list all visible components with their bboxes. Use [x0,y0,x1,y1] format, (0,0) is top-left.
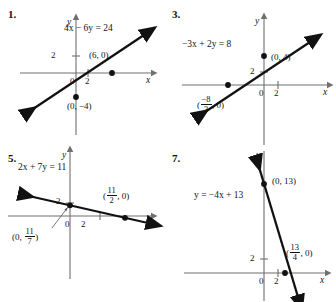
y-axis-label: y [67,18,71,28]
origin-label: 0 [259,89,264,98]
point-marker-x-intercept [282,270,288,276]
problem-panel-3: 3. −3x + 2y = 8 [168,0,336,151]
x-axis-label: x [320,276,324,286]
graph-1 [0,0,168,151]
point-label-y-intercept: (0, 13) [272,177,296,186]
point-marker-y-intercept [261,53,267,59]
fraction: −8 3 [201,95,212,114]
x-tick-label-2: 2 [81,220,86,229]
y-tick-label-2: 2 [250,67,255,76]
y-axis-label: y [62,151,66,161]
x-tick-label-2: 2 [85,77,90,86]
point-marker-y-intercept [73,94,79,100]
point-label-y-intercept: (0, −4) [67,102,92,111]
problem-panel-1: 1. 4x − 6y = 24 [0,0,168,151]
x-axis-label: x [323,88,327,98]
y-tick-label-2: 2 [51,51,56,60]
x-tick-label-2: 2 [274,89,279,98]
problem-panel-7: 7. y = −4x + 13 [168,151,336,302]
origin-label: 0 [259,277,264,286]
problem-panel-5: 5. 2x + 7y = 11 [0,151,168,302]
y-axis-label: y [256,151,260,161]
y-tick-label-2: 2 [56,197,61,206]
y-tick-label-2: 2 [250,254,255,263]
y-axis-label: y [255,17,259,27]
fraction: 11 2 [107,186,117,205]
point-label-y-intercept: (0, 4) [271,53,291,62]
graph-7 [168,151,336,302]
origin-label: 0 [70,77,75,86]
point-label-x-intercept: ( 13 4 , 0) [286,243,313,262]
point-marker-x-intercept [122,215,128,221]
point-label-x-intercept: (6, 0) [89,51,109,60]
x-tick-label-2: 2 [274,277,279,286]
point-label-x-intercept: ( 11 2 , 0) [103,186,129,205]
x-axis-label: x [146,76,150,86]
fraction: 11 7 [25,227,35,246]
point-marker-x-intercept [109,70,115,76]
point-label-y-intercept: (0, 11 7 ) [12,227,38,246]
point-label-x-intercept: ( −8 3 , 0) [197,95,224,114]
answer-key-page: 1. 4x − 6y = 24 [0,0,336,302]
origin-label: 0 [65,220,70,229]
fraction: 13 4 [290,243,301,262]
x-axis-label: x [146,219,150,229]
point-marker-x-intercept [225,82,231,88]
point-marker-y-intercept [261,181,267,187]
